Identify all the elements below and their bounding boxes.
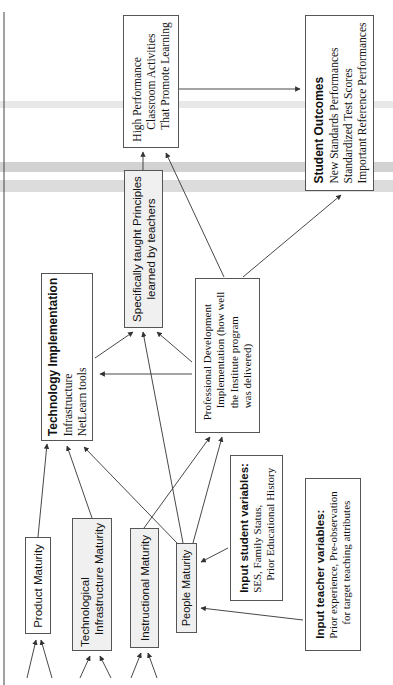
arrow-pd-to-student-outcomes (243, 195, 341, 277)
technology-implementation-box: Technology Implementation Infrastructure… (41, 273, 93, 441)
arrow-incoming-product-a (27, 640, 36, 678)
specifically-taught-line-2: learned by teachers (144, 176, 158, 322)
arrow-people-to-specifically-taught (143, 332, 183, 543)
arrow-incoming-instructional-a (131, 653, 141, 678)
input-teacher-variables-box: Input teacher variables: Prior experienc… (305, 478, 361, 651)
professional-development-line-2: Implementation (how well (214, 291, 227, 420)
professional-development-line-4: was delivered) (241, 291, 254, 420)
input-student-variables-box: Input student variables: SES, Family Sta… (230, 455, 283, 601)
input-teacher-title: Input teacher variables: (313, 491, 327, 639)
input-student-line-2: Prior Educational History (264, 463, 277, 593)
input-student-line-1: SES, Family Status, (250, 463, 263, 593)
professional-development-box: Professional Development Implementation … (195, 278, 260, 433)
input-teacher-line-1: Prior experience, Pre-observation (327, 491, 340, 639)
arrow-incoming-instructional-b (148, 653, 157, 678)
instructional-maturity-label: Instructional Maturity (137, 535, 151, 641)
student-outcomes-box: Student Outcomes New Standards Performan… (305, 15, 374, 191)
technology-implementation-line-1: Infrastructure (60, 278, 74, 436)
arrow-pd-to-high-performance (166, 153, 224, 277)
arrow-pd-to-specifically-taught (157, 332, 192, 362)
arrow-incoming-infra-a (80, 656, 90, 678)
technology-implementation-title: Technology Implementation (46, 278, 61, 436)
input-student-title: Input student variables: (236, 463, 250, 593)
technology-implementation-line-2: NetLearn tools (74, 278, 88, 436)
specifically-taught-line-1: Specifically taught Principles (129, 176, 143, 322)
arrow-student-vars-to-people (201, 548, 228, 562)
student-outcomes-line-2: Standardized Test Scores (340, 23, 354, 184)
people-maturity-label: People Maturity (180, 550, 193, 626)
high-performance-line-2: Classroom Activities (144, 22, 158, 141)
arrow-instructional-to-pd (144, 437, 210, 528)
tech-infrastructure-maturity-box: Technological Infrastructure Maturity (72, 518, 112, 651)
tech-infrastructure-line-2: Infrastructure Maturity (92, 523, 106, 647)
product-maturity-box: Product Maturity (25, 537, 51, 634)
arrow-product-to-tech (38, 444, 47, 537)
professional-development-line-3: the Institute program (228, 291, 241, 420)
high-performance-box: High Performance Classroom Activities Th… (123, 15, 179, 148)
arrow-incoming-product-b (41, 640, 52, 678)
instructional-maturity-box: Instructional Maturity (130, 528, 159, 648)
student-outcomes-line-3: Important Reference Performances (354, 23, 368, 184)
input-teacher-line-2: for target teaching attributes (340, 491, 353, 639)
student-outcomes-line-1: New Standards Performances (326, 23, 340, 184)
arrow-infra-to-tech (67, 446, 92, 518)
arrow-people-to-pd (193, 437, 222, 543)
high-performance-line-3: That Promote Learning (158, 22, 172, 141)
arrow-incoming-infra-b (100, 656, 111, 678)
student-outcomes-title: Student Outcomes (311, 23, 326, 184)
arrow-tech-to-specifically-taught (95, 332, 133, 358)
tech-infrastructure-line-1: Technological (78, 523, 92, 647)
specifically-taught-box: Specifically taught Principles learned b… (124, 170, 163, 328)
professional-development-line-1: Professional Development (201, 291, 214, 420)
people-maturity-box: People Maturity (176, 543, 197, 633)
high-performance-line-1: High Performance (130, 22, 144, 141)
arrow-teacher-vars-to-people (201, 608, 303, 620)
product-maturity-label: Product Maturity (31, 544, 45, 628)
